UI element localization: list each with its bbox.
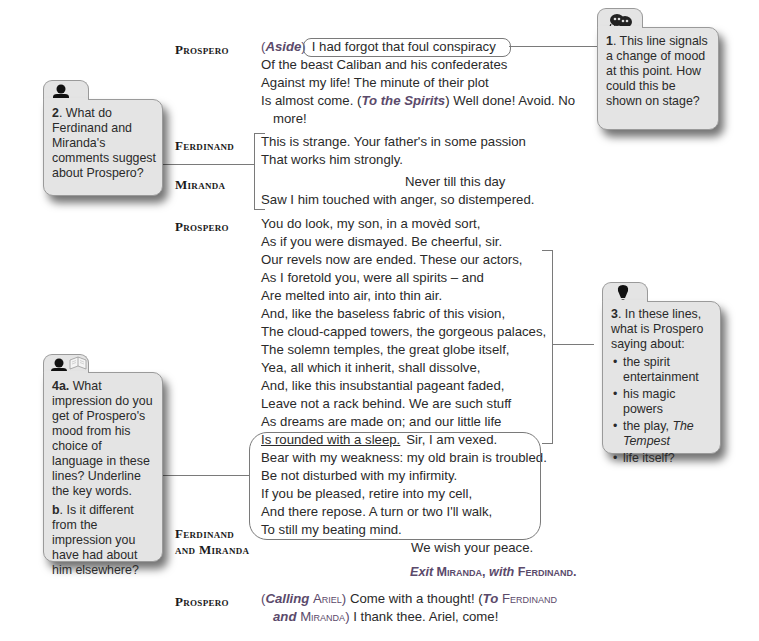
verse-line: And, like this insubstantial pageant fad… bbox=[261, 377, 504, 395]
question-number: 1 bbox=[606, 34, 613, 48]
question-card-4-body: 4a. What impression do you get of Prospe… bbox=[43, 372, 163, 562]
question-card-3-body: 3. In these lines, what is Prospero sayi… bbox=[602, 301, 721, 454]
bullet-item: the spirit entertainment bbox=[623, 355, 714, 385]
question-number: 3 bbox=[611, 307, 618, 321]
verse-line: Against my life! The minute of their plo… bbox=[261, 74, 489, 92]
verse-line: (Calling Ariel) Come with a thought! (To… bbox=[261, 590, 557, 608]
question-text: . What do Ferdinand and Miranda's commen… bbox=[52, 106, 156, 180]
verse-line: Are melted into air, into thin air. bbox=[261, 287, 442, 305]
speaker-prospero: Prospero bbox=[175, 42, 229, 58]
question-text: . This line signals a change of mood at … bbox=[606, 34, 708, 108]
verse-line: This is strange. Your father's in some p… bbox=[261, 133, 526, 151]
verse-line: Yea, all which it inherit, shall dissolv… bbox=[261, 359, 480, 377]
stage-direction: Calling bbox=[265, 591, 309, 606]
verse-line: more! bbox=[273, 110, 307, 128]
verse-line: Saw I him touched with anger, so distemp… bbox=[261, 191, 534, 209]
connector-line-q3 bbox=[552, 344, 594, 345]
speaker-ferdinand: Ferdinand bbox=[175, 526, 234, 542]
verse-line: and Miranda) I thank thee. Ariel, come! bbox=[273, 608, 498, 626]
bracket bbox=[254, 133, 265, 210]
verse-line: Of the beast Caliban and his confederate… bbox=[261, 56, 507, 74]
bullet-item: his magic powers bbox=[623, 387, 714, 417]
speaker-prospero: Prospero bbox=[175, 219, 229, 235]
book-icon bbox=[69, 356, 87, 370]
verse-line: You do look, my son, in a movèd sort, bbox=[261, 215, 480, 233]
question-text-4a: What impression do you get of Prospero's… bbox=[52, 379, 153, 498]
highlight-oval bbox=[303, 38, 511, 57]
speaker-prospero: Prospero bbox=[175, 594, 229, 610]
bullet-item: the play, The Tempest bbox=[623, 419, 714, 449]
question-number-4a: 4a. bbox=[52, 379, 69, 393]
verse-line: Is almost come. (To the Spirits) Well do… bbox=[261, 92, 575, 110]
verse-line: And, like the baseless fabric of this vi… bbox=[261, 305, 505, 323]
question-card-2-body: 2. What do Ferdinand and Miranda's comme… bbox=[43, 99, 163, 196]
question-number-4b: b bbox=[52, 503, 60, 517]
stage-direction: To the Spirits bbox=[361, 93, 445, 108]
verse-line: As if you were dismayed. Be cheerful, si… bbox=[261, 233, 502, 251]
stage-direction: Aside bbox=[265, 39, 301, 54]
question-card-1-body: 1. This line signals a change of mood at… bbox=[597, 27, 719, 130]
verse-line: Never till this day bbox=[405, 173, 505, 191]
verse-line: The cloud-capped towers, the gorgeous pa… bbox=[261, 323, 546, 341]
bullet-item: life itself? bbox=[623, 451, 714, 466]
verse-line: The solemn temples, the great globe itse… bbox=[261, 341, 510, 359]
question-text-4b: . Is it different from the impression yo… bbox=[52, 503, 139, 577]
connector-line-q2 bbox=[163, 164, 255, 165]
verse-line: That works him strongly. bbox=[261, 151, 403, 169]
verse-line: We wish your peace. bbox=[411, 539, 533, 557]
stage-direction-exit: Exit Miranda, with Ferdinand. bbox=[410, 563, 577, 581]
speaker-and-miranda: and Miranda bbox=[175, 542, 249, 558]
question-text: . In these lines, what is Prospero sayin… bbox=[611, 307, 703, 351]
verse-line: As I foretold you, were all spirits – an… bbox=[261, 269, 484, 287]
verse-line: Leave not a rack behind. We are such stu… bbox=[261, 395, 511, 413]
bracket bbox=[542, 250, 553, 444]
connector-line-q1 bbox=[509, 46, 599, 47]
question-number: 2 bbox=[52, 106, 59, 120]
verse-line: Our revels now are ended. These our acto… bbox=[261, 251, 522, 269]
speaker-ferdinand: Ferdinand bbox=[175, 138, 234, 154]
highlight-oval bbox=[249, 432, 541, 540]
verse-line: As dreams are made on; and our little li… bbox=[261, 413, 501, 431]
connector-line-q4 bbox=[163, 475, 250, 476]
bullet-list: the spirit entertainment his magic power… bbox=[611, 355, 714, 466]
speaker-miranda: Miranda bbox=[175, 177, 225, 193]
